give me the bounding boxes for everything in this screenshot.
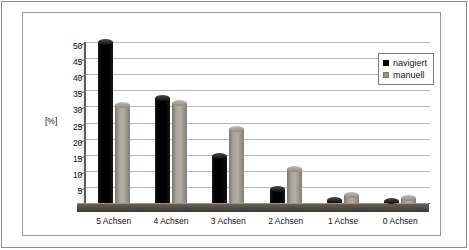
bar-cap-ellipse — [115, 102, 130, 108]
x-axis-tick-label: 5 Achsen — [96, 216, 131, 226]
y-axis-tick-label: 15 — [73, 154, 82, 164]
x-axis-tick-label: 0 Achsen — [383, 216, 418, 226]
chart-floor — [77, 203, 429, 212]
legend-label-navigiert: navigiert — [393, 57, 427, 69]
bar-manuell — [344, 195, 359, 203]
chart-frame: [%] 05101520253035404550 5 Achsen4 Achse… — [22, 12, 441, 236]
bar-manuell — [115, 105, 130, 203]
chart-legend: navigiert manuell — [378, 53, 434, 85]
bar-body — [98, 42, 113, 203]
y-axis-tick-label: 50 — [73, 41, 82, 51]
bar-body — [155, 98, 170, 203]
bar-cap-ellipse — [270, 186, 285, 192]
y-axis-tick-label: 25 — [73, 122, 82, 132]
y-axis-tick-label: 35 — [73, 89, 82, 99]
bar-group — [257, 42, 314, 203]
x-axis-tick-label: 1 Achse — [328, 216, 358, 226]
y-axis-tick-label: 10 — [73, 170, 82, 180]
bar-body — [172, 103, 187, 203]
bar-manuell — [287, 169, 302, 203]
legend-item-manuell: manuell — [383, 69, 427, 81]
bar-cap-ellipse — [98, 39, 113, 45]
bar-body — [212, 156, 227, 203]
bar-group — [314, 42, 371, 203]
bar-navigiert — [270, 189, 285, 203]
y-axis-title: [%] — [45, 116, 57, 126]
x-axis-tick-label: 4 Achsen — [154, 216, 189, 226]
bar-cap-ellipse — [327, 197, 342, 203]
x-axis-labels: 5 Achsen4 Achsen3 Achsen2 Achsen1 Achse0… — [77, 216, 429, 230]
bar-body — [115, 105, 130, 203]
bar-body — [287, 169, 302, 203]
bar-manuell — [172, 103, 187, 203]
x-axis-tick-label: 2 Achsen — [268, 216, 303, 226]
bar-navigiert — [384, 201, 399, 203]
legend-swatch-icon-manuell — [383, 72, 389, 78]
bar-cap-ellipse — [344, 192, 359, 198]
legend-item-navigiert: navigiert — [383, 57, 427, 69]
y-axis-tick-label: 30 — [73, 105, 82, 115]
bar-navigiert — [155, 98, 170, 203]
legend-swatch-icon-navigiert — [383, 60, 389, 66]
bar-navigiert — [98, 42, 113, 203]
y-axis-tick-label: 45 — [73, 57, 82, 67]
bar-body — [229, 129, 244, 203]
chart-figure: [%] 05101520253035404550 5 Achsen4 Achse… — [0, 0, 469, 250]
x-axis-tick-label: 3 Achsen — [211, 216, 246, 226]
legend-label-manuell: manuell — [393, 69, 425, 81]
bar-navigiert — [327, 200, 342, 203]
y-axis-tick-label: 40 — [73, 73, 82, 83]
bar-group — [142, 42, 199, 203]
y-axis-tick-label: 5 — [77, 186, 82, 196]
bar-group — [85, 42, 142, 203]
bar-manuell — [401, 198, 416, 203]
y-axis-tick-label: 20 — [73, 138, 82, 148]
bar-group — [200, 42, 257, 203]
bar-manuell — [229, 129, 244, 203]
bar-navigiert — [212, 156, 227, 203]
